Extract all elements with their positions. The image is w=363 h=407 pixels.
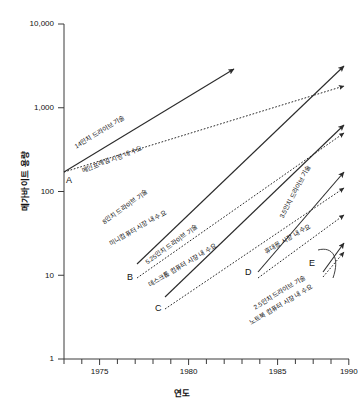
chart-root: 메가바이트 용량 연도 10,000 1,000 100 10 1 1975 1…: [0, 0, 363, 407]
x-tick-1990: 1990: [329, 367, 363, 376]
y-tick-10: 10: [4, 271, 54, 280]
y-axis-title: 메가바이트 용량: [18, 111, 30, 251]
series-line-desktop-demand: [165, 188, 344, 309]
y-tick-1000: 1,000: [4, 103, 54, 112]
x-axis-ticks: [64, 359, 349, 365]
series-line-notebook-demand: [323, 252, 344, 277]
e-leader-curve: [318, 249, 336, 278]
point-marker-c: C: [155, 303, 162, 313]
series-line-8inch-tech: [137, 66, 344, 264]
x-axis-title: 연도: [0, 386, 363, 398]
x-tick-1980: 1980: [169, 367, 209, 376]
point-marker-b: B: [127, 272, 133, 282]
y-tick-1: 1: [4, 354, 54, 363]
axis-lines: [64, 24, 349, 359]
series-line-25inch-tech: [323, 243, 344, 272]
y-tick-100: 100: [4, 187, 54, 196]
y-axis-ticks: [58, 24, 64, 359]
point-marker-e: E: [309, 258, 315, 268]
point-marker-d: D: [245, 267, 252, 277]
point-marker-a: A: [66, 175, 72, 185]
chart-plot-area: [0, 0, 363, 407]
x-tick-1975: 1975: [80, 367, 120, 376]
x-tick-1985: 1985: [258, 367, 298, 376]
series-line-14inch-tech: [64, 69, 234, 172]
y-tick-10000: 10,000: [4, 19, 54, 28]
